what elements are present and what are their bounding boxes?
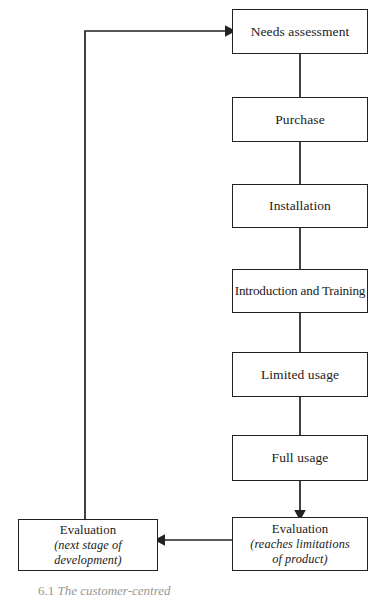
node-sublabel-line2: of product) xyxy=(272,552,328,566)
node-label: Full usage xyxy=(272,450,329,465)
figure-caption-text: The customer-centred xyxy=(58,583,171,598)
node-label: Purchase xyxy=(275,112,325,127)
node-label: Installation xyxy=(269,198,331,213)
figure-caption-number: 6.1 xyxy=(38,583,54,598)
node-installation[interactable]: Installation xyxy=(232,184,368,228)
node-label: Limited usage xyxy=(261,367,339,382)
node-label: Evaluation xyxy=(60,523,116,538)
node-label: Introduction and Training xyxy=(235,284,366,299)
edge-feedback-loop-to-needs-assessment xyxy=(85,31,227,519)
node-sublabel-line2: development) xyxy=(54,553,121,567)
node-label: Evaluation xyxy=(272,522,328,537)
node-sublabel-line1: (reaches limitations xyxy=(250,537,350,551)
figure-caption: 6.1 The customer-centred xyxy=(38,583,170,599)
node-needs-assessment[interactable]: Needs assessment xyxy=(232,9,368,54)
node-label: Needs assessment xyxy=(251,24,350,39)
node-introduction-and-training[interactable]: Introduction and Training xyxy=(232,269,368,313)
node-limited-usage[interactable]: Limited usage xyxy=(232,352,368,397)
node-evaluation-next-stage[interactable]: Evaluation (next stage of development) xyxy=(18,519,158,571)
node-full-usage[interactable]: Full usage xyxy=(232,435,368,481)
node-purchase[interactable]: Purchase xyxy=(232,97,368,142)
node-evaluation-reaches-limitations[interactable]: Evaluation (reaches limitations of produ… xyxy=(232,517,368,571)
node-sublabel-line1: (next stage of xyxy=(54,538,122,552)
